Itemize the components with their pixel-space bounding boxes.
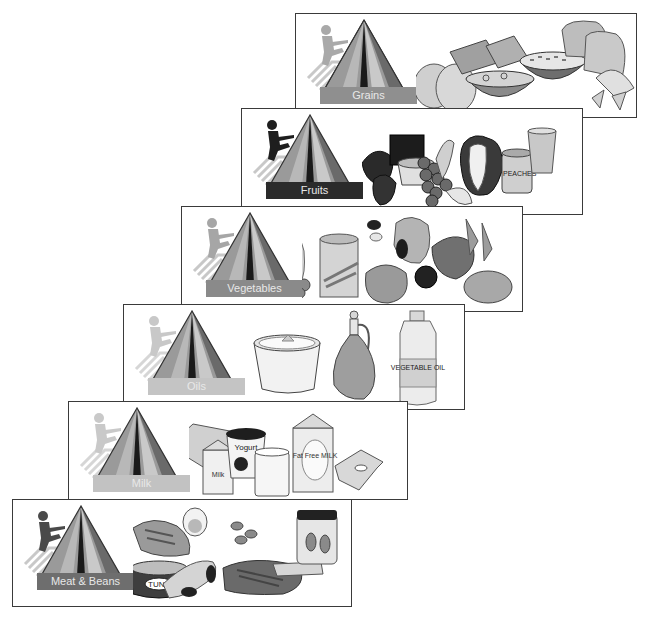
food-group-label: Vegetables [206,280,303,297]
yogurt-label: Yogurt [235,443,259,452]
vegetables-food-illustration [302,211,518,307]
panel-vegetables: Vegetables [181,206,523,312]
panel-milk: Milk Milk Yogurt Fat Free MILK [68,401,408,500]
meat-beans-food-illustration: TUNA [133,504,347,602]
panel-grains: Grains [295,13,637,118]
food-group-label: Grains [320,87,417,104]
grains-food-illustration [416,18,632,113]
fruits-food-illustration: PEACHES [362,113,578,210]
milk-carton-label: Milk [212,471,225,478]
milk-food-illustration: Milk Yogurt Fat Free MILK [189,406,403,495]
food-group-label: Milk [93,475,190,492]
panel-fruits: Fruits PEACHES [241,108,583,215]
food-group-label: Meat & Beans [37,573,134,590]
bottle-label: VEGETABLE OIL [391,364,445,371]
oils-food-illustration: VEGETABLE OIL [244,309,460,405]
panel-oils: Oils VEGETABLE OIL [123,304,465,410]
food-group-label: Fruits [266,182,363,199]
fat-free-milk-label: Fat Free MILK [293,452,338,459]
panel-meat-beans: Meat & Beans TUNA [12,499,352,607]
food-group-label: Oils [148,378,245,395]
